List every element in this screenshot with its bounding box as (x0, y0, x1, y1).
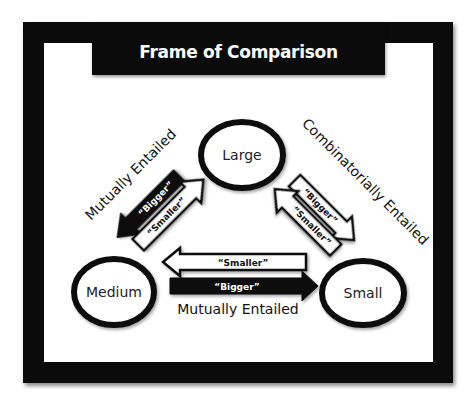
node-medium: Medium (74, 259, 154, 325)
right-arrows: “Bigger” “Smaller” (264, 164, 364, 264)
bottom-relation-label: Mutually Entailed (177, 301, 298, 317)
node-small: Small (322, 261, 404, 325)
bottom-arrow-smaller-label: “Smaller” (218, 258, 269, 268)
bottom-arrow-bigger: “Bigger” (170, 271, 318, 301)
node-large: Large (201, 122, 283, 188)
comparison-diagram: Large Medium Small “Smaller” “Bigger” Mu… (0, 0, 476, 403)
bottom-arrow-bigger-label: “Bigger” (214, 282, 259, 292)
node-medium-label: Medium (86, 284, 142, 300)
node-small-label: Small (344, 285, 383, 301)
node-large-label: Large (222, 147, 261, 163)
bottom-arrow-smaller: “Smaller” (163, 248, 306, 276)
